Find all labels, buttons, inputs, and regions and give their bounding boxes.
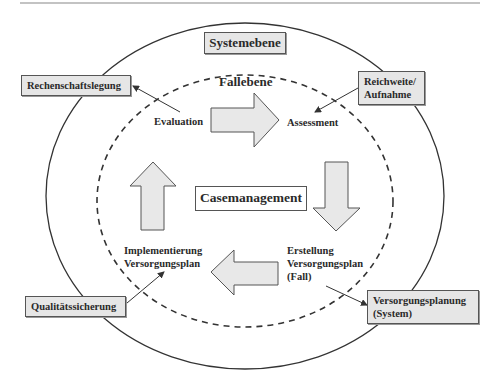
step-erstellung-line2: Versorgungsplan [287,257,363,270]
step-implementierung-line1: Implementierung [124,244,202,257]
versorgungsplanung-box: Versorgungsplanung (System) [367,290,479,324]
arrow-up-icon [130,162,176,230]
casemanagement-box: Casemanagement [195,186,307,211]
versorgungsplanung-line2: (System) [373,307,473,320]
connector-reichweite-assessment [315,88,358,112]
connector-evaluation-rechenschaftslegung [133,86,180,112]
reichweite-line1: Reichweite/ [364,75,419,88]
arrow-left-icon [211,250,278,295]
step-implementierung-line2: Versorgungsplan [124,257,202,270]
connector-qualitaetssicherung-implementierung [127,272,164,303]
step-erstellung-line3: (Fall) [287,270,363,283]
rechenschaftslegung-box: Rechenschaftslegung [21,75,131,96]
arrow-right-icon [211,93,279,147]
system-level-label: Systemebene [204,32,286,54]
step-implementierung: Implementierung Versorgungsplan [124,244,202,270]
step-assessment: Assessment [287,116,338,129]
qualitaetssicherung-box: Qualitätssicherung [25,296,126,317]
reichweite-line2: Aufnahme [364,88,419,101]
step-erstellung-line1: Erstellung [287,244,363,257]
versorgungsplanung-line1: Versorgungsplanung [373,294,473,307]
arrow-down-icon [313,162,360,231]
step-erstellung: Erstellung Versorgungsplan (Fall) [287,244,363,283]
reichweite-box: Reichweite/ Aufnahme [358,71,425,105]
step-evaluation: Evaluation [154,115,203,128]
case-level-label: Fallebene [219,74,272,90]
